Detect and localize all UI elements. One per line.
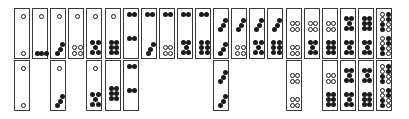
white-pip-icon — [308, 21, 313, 26]
domino-tile — [340, 8, 356, 59]
domino-tile — [249, 8, 265, 59]
black-pip-icon — [349, 26, 354, 31]
black-pip-icon — [313, 40, 318, 45]
black-pip-icon — [55, 51, 60, 56]
black-pip-icon — [380, 103, 385, 108]
white-pip-icon — [295, 45, 300, 50]
black-pip-icon — [344, 78, 349, 83]
white-pip-icon — [295, 27, 300, 32]
domino-tile — [358, 8, 374, 59]
domino-tile — [68, 8, 84, 59]
black-pip-icon — [380, 51, 385, 56]
white-pip-icon — [290, 97, 295, 102]
domino-tile — [123, 8, 139, 59]
black-pip-icon — [218, 27, 223, 32]
domino-tile — [340, 60, 356, 111]
black-pip-icon — [109, 96, 114, 101]
black-pip-icon — [199, 50, 204, 55]
domino-tile — [141, 8, 157, 59]
black-pip-icon — [313, 50, 318, 55]
black-pip-icon — [181, 50, 186, 55]
white-pip-icon — [57, 14, 62, 19]
white-pip-icon — [386, 51, 391, 56]
black-pip-icon — [367, 102, 372, 107]
black-pip-icon — [132, 64, 137, 69]
white-pip-icon — [72, 51, 77, 56]
black-pip-icon — [271, 50, 276, 55]
white-pip-icon — [290, 73, 295, 78]
black-pip-icon — [96, 50, 101, 55]
domino-tile — [358, 60, 374, 111]
black-pip-icon — [331, 102, 336, 107]
black-pip-icon — [331, 50, 336, 55]
black-pip-icon — [90, 50, 95, 55]
black-pip-icon — [218, 79, 223, 84]
white-pip-icon — [72, 45, 77, 50]
white-pip-icon — [111, 14, 116, 19]
black-pip-icon — [146, 51, 151, 56]
black-pip-icon — [132, 88, 137, 93]
domino-tile — [177, 8, 193, 59]
black-pip-icon — [349, 78, 354, 83]
black-pip-icon — [380, 79, 385, 84]
domino-tile — [105, 8, 121, 59]
black-pip-icon — [344, 102, 349, 107]
black-pip-icon — [145, 12, 150, 17]
domino-tile — [376, 60, 392, 111]
black-pip-icon — [362, 50, 367, 55]
black-pip-icon — [236, 27, 241, 32]
black-pip-icon — [127, 36, 132, 41]
black-pip-icon — [367, 78, 372, 83]
domino-tile — [123, 60, 139, 111]
black-pip-icon — [90, 102, 95, 107]
black-pip-icon — [308, 50, 313, 55]
domino-tile — [213, 60, 229, 111]
black-pip-icon — [132, 12, 137, 17]
black-pip-icon — [114, 50, 119, 55]
black-pip-icon — [96, 102, 101, 107]
white-pip-icon — [326, 27, 331, 32]
white-pip-icon — [290, 27, 295, 32]
white-pip-icon — [93, 14, 98, 19]
black-pip-icon — [326, 50, 331, 55]
white-pip-icon — [235, 51, 240, 56]
white-pip-icon — [39, 14, 44, 19]
black-pip-icon — [349, 102, 354, 107]
black-pip-icon — [132, 36, 137, 41]
black-pip-icon — [186, 12, 191, 17]
white-pip-icon — [290, 45, 295, 50]
domino-tile — [159, 8, 175, 59]
domino-tile — [105, 60, 121, 111]
white-pip-icon — [386, 103, 391, 108]
domino-tile — [322, 60, 338, 111]
domino-tile — [286, 8, 302, 59]
black-pip-icon — [204, 12, 209, 17]
white-pip-icon — [290, 21, 295, 26]
black-pip-icon — [344, 50, 349, 55]
black-pip-icon — [109, 50, 114, 55]
white-pip-icon — [21, 14, 26, 19]
black-pip-icon — [253, 50, 258, 55]
black-pip-icon — [367, 26, 372, 31]
black-pip-icon — [349, 50, 354, 55]
domino-tile — [213, 8, 229, 59]
white-pip-icon — [326, 79, 331, 84]
domino-tile — [376, 8, 392, 59]
domino-tile — [86, 8, 102, 59]
domino-tile — [322, 8, 338, 59]
domino-tile — [14, 8, 30, 59]
white-pip-icon — [21, 51, 26, 56]
black-pip-icon — [205, 50, 210, 55]
white-pip-icon — [168, 51, 173, 56]
white-pip-icon — [295, 73, 300, 78]
white-pip-icon — [308, 27, 313, 32]
black-pip-icon — [127, 64, 132, 69]
white-pip-icon — [78, 45, 83, 50]
domino-tile — [231, 8, 247, 59]
white-pip-icon — [93, 66, 98, 71]
black-pip-icon — [96, 40, 101, 45]
black-pip-icon — [362, 26, 367, 31]
white-pip-icon — [295, 51, 300, 56]
white-pip-icon — [295, 21, 300, 26]
white-pip-icon — [163, 51, 168, 56]
